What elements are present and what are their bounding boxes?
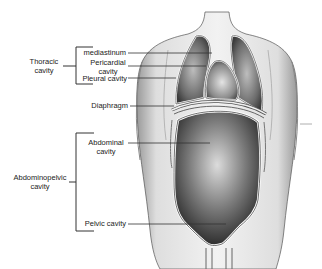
thoracic-line2: cavity	[24, 66, 64, 75]
thoracic-line1: Thoracic	[24, 57, 64, 66]
thoracic-cavity-label: Thoracic cavity	[24, 57, 64, 75]
body-cavities-diagram: Thoracic cavity Abdominopelvic cavity me…	[0, 0, 322, 269]
pleural-cavity-label: Pleural cavity	[72, 74, 127, 83]
mediastinum-label: mediastinum	[80, 48, 126, 57]
abdominopelvic-line2: cavity	[10, 182, 70, 191]
abdominopelvic-line1: Abdominopelvic	[10, 173, 70, 182]
abdominal-line2: cavity	[86, 147, 126, 156]
pericardial-line1: Pericardial	[88, 58, 128, 67]
pelvic-cavity-label: Pelvic cavity	[72, 219, 126, 228]
diaphragm-label: Diaphragm	[80, 101, 128, 110]
torso-illustration	[0, 0, 322, 269]
abdominopelvic-cavity-label: Abdominopelvic cavity	[10, 173, 70, 191]
abdominal-line1: Abdominal	[86, 138, 126, 147]
abdominal-cavity-label: Abdominal cavity	[86, 138, 126, 156]
